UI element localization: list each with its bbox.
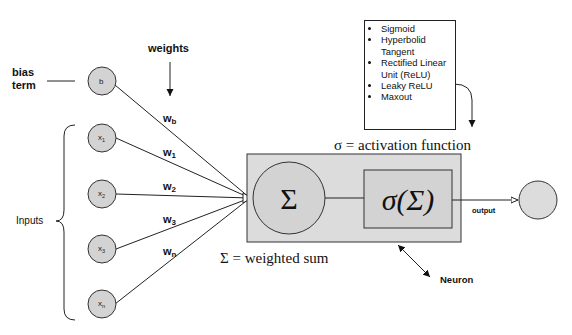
neuron-label: Neuron — [440, 274, 473, 285]
weight-label-wn: wn — [162, 245, 177, 259]
diagram-graphics: bias term weights Inputs b x1 x2 x3 xn w… — [0, 0, 572, 335]
bias-label: bias — [12, 66, 34, 78]
output-label: output — [472, 206, 496, 215]
activation-item-maxout: Maxout — [381, 91, 452, 102]
weight-label-w1: w1 — [162, 146, 177, 160]
activation-item-tanh: Hyperbolid Tangent — [381, 34, 452, 57]
activation-symbol: σ(Σ) — [382, 183, 435, 217]
term-label: term — [12, 79, 36, 91]
weight-label-w2: w2 — [162, 180, 177, 194]
weight-connections — [115, 85, 250, 304]
inputs-brace — [56, 125, 75, 320]
activation-function-label: σ = activation function — [334, 137, 471, 153]
bias-node-label: b — [99, 77, 104, 86]
activation-list-arrow — [454, 84, 472, 127]
activation-item-relu: Rectified Linear Unit (ReLU) — [381, 57, 452, 80]
neuron-pointer-arrow — [398, 245, 430, 277]
activation-functions-list: Sigmoid Hyperbolid Tangent Rectified Lin… — [364, 20, 456, 130]
weight-label-wb: wb — [162, 112, 177, 126]
inputs-label: Inputs — [16, 215, 43, 226]
neuron-diagram: bias term weights Inputs b x1 x2 x3 xn w… — [0, 0, 572, 335]
sum-symbol: Σ — [280, 182, 297, 215]
weights-label: weights — [147, 42, 189, 54]
activation-item-sigmoid: Sigmoid — [381, 23, 452, 34]
output-node — [519, 181, 557, 219]
activation-item-leaky-relu: Leaky ReLU — [381, 80, 452, 91]
weight-label-w3: w3 — [162, 213, 177, 227]
weighted-sum-label: Σ = weighted sum — [220, 250, 329, 266]
